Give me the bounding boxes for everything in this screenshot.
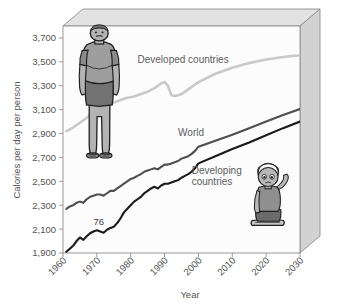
x-axis-tick-label: 2000 — [181, 255, 204, 278]
y-axis-tick-label: 1,900 — [32, 247, 56, 258]
x-axis-tick-label: 1990 — [147, 255, 170, 278]
x-axis-tick-label: 2030 — [283, 255, 306, 278]
x-axis-tick-label: 1980 — [113, 255, 136, 278]
x-axis-tick-label: 1970 — [80, 255, 103, 278]
y-axis-tick-label: 2,700 — [32, 152, 56, 163]
x-axis-tick-label: 2020 — [249, 255, 272, 278]
y-axis-tick-label: 2,300 — [32, 200, 56, 211]
series-label-developing-countries: Developing — [192, 165, 242, 176]
data-annotation-76: 76 — [94, 216, 105, 227]
x-axis-ticks: 19601970198019902000201020202030 — [46, 253, 306, 277]
y-axis-tick-label: 2,900 — [32, 128, 56, 139]
series-label-developing-countries-line2: countries — [192, 176, 233, 187]
y-axis-tick-label: 3,500 — [32, 56, 56, 67]
x-axis-tick-label: 2010 — [215, 255, 238, 278]
series-label-world: World — [178, 127, 204, 138]
frame-top-face — [63, 9, 320, 26]
y-axis-title: Calories per day per person — [11, 81, 22, 198]
y-axis-tick-label: 3,100 — [32, 104, 56, 115]
series-label-developed-countries: Developed countries — [138, 54, 229, 65]
y-axis-ticks: 1,9002,1002,3002,5002,7002,9003,1003,300… — [32, 32, 63, 258]
y-axis-tick-label: 2,500 — [32, 176, 56, 187]
chart-figure: 1,9002,1002,3002,5002,7002,9003,1003,300… — [0, 0, 337, 306]
x-axis-title: Year — [180, 289, 199, 300]
y-axis-tick-label: 3,300 — [32, 80, 56, 91]
y-axis-tick-label: 2,100 — [32, 224, 56, 235]
frame-right-face — [300, 9, 320, 253]
chart-canvas: 1,9002,1002,3002,5002,7002,9003,1003,300… — [0, 0, 337, 306]
y-axis-tick-label: 3,700 — [32, 32, 56, 43]
